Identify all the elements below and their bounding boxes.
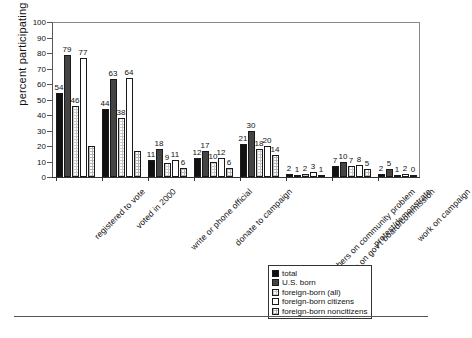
- bar: 54: [56, 93, 63, 177]
- bar: 38: [118, 118, 125, 177]
- bar: 11: [148, 160, 155, 177]
- bar-value-label: 0: [411, 165, 415, 175]
- y-tick-label: 90: [0, 33, 52, 42]
- bar: 0: [410, 175, 417, 177]
- bar: 11: [172, 160, 179, 177]
- x-tick-mark: [148, 177, 149, 181]
- bar-group: 54794677: [52, 22, 98, 177]
- y-tick-label: 50: [0, 95, 52, 104]
- legend-label: U.S. born: [282, 278, 316, 287]
- legend-item: foreign-born noncitizens: [272, 307, 367, 316]
- legend-label: foreign-born (all): [282, 288, 341, 297]
- x-tick-mark: [102, 177, 103, 181]
- bar-value-label: 2: [303, 164, 307, 174]
- bar-groups: 5479467744633864111891161217101262130182…: [52, 22, 420, 177]
- bar-value-label: 2: [403, 164, 407, 174]
- bar: 44: [102, 109, 109, 177]
- legend-item: foreign-born (all): [272, 288, 367, 297]
- y-tick-label: 10: [0, 157, 52, 166]
- bar: 18: [156, 149, 163, 177]
- bar: 64: [126, 78, 133, 177]
- y-tick-label: 100: [0, 18, 52, 27]
- x-tick-mark: [194, 177, 195, 181]
- bar: 12: [194, 158, 201, 177]
- legend-item: foreign-born citizens: [272, 297, 367, 306]
- x-category-label: registered to vote: [92, 186, 147, 241]
- bar: 79: [64, 55, 71, 177]
- bar: 7: [348, 166, 355, 177]
- bar-value-label: 3: [311, 162, 315, 172]
- bar: 6: [180, 168, 187, 177]
- bar: 1: [294, 175, 301, 177]
- bar-value-label: 11: [171, 150, 179, 160]
- legend-swatch-foreign-born-noncitizens: [272, 308, 279, 315]
- legend-swatch-total: [272, 270, 279, 277]
- legend-label: foreign-born noncitizens: [282, 307, 367, 316]
- bar: 5: [386, 169, 393, 177]
- footer-divider: [14, 316, 428, 317]
- bar-value-label: 6: [227, 158, 231, 168]
- bar-group: 25120: [374, 22, 420, 177]
- bar: 46: [72, 106, 79, 177]
- bar: 18: [256, 149, 263, 177]
- bar-value-label: 1: [319, 165, 323, 175]
- bar: 1: [394, 175, 401, 177]
- bar: 1: [318, 175, 325, 177]
- bar-value-label: 54: [55, 83, 64, 93]
- bar-value-label: 2: [379, 164, 383, 174]
- bar: 12: [218, 158, 225, 177]
- bar: 6: [226, 168, 233, 177]
- bar: 3: [310, 172, 317, 177]
- bar-value-label: 5: [365, 159, 369, 169]
- bar-value-label: 7: [333, 156, 337, 166]
- bar: 2: [402, 174, 409, 177]
- legend-swatch-foreign-born-citizens: [272, 298, 279, 305]
- bar-value-label: 7: [349, 156, 353, 166]
- bar: 77: [80, 58, 87, 177]
- bar: [134, 151, 141, 177]
- bar: 21: [240, 144, 247, 177]
- bar-value-label: 77: [79, 48, 88, 58]
- x-tick-mark: [56, 177, 57, 181]
- bar: 9: [164, 163, 171, 177]
- bar-value-label: 11: [147, 150, 155, 160]
- bar: 63: [110, 79, 117, 177]
- bar-group: 2130182014: [236, 22, 282, 177]
- legend-swatch-foreign-born-all: [272, 289, 279, 296]
- bar-value-label: 17: [201, 141, 210, 151]
- bar-value-label: 6: [181, 158, 185, 168]
- y-tick-label: 30: [0, 126, 52, 135]
- bar-group: 710785: [328, 22, 374, 177]
- bar-value-label: 8: [357, 155, 361, 165]
- bar: 30: [248, 131, 255, 178]
- y-tick-label: 80: [0, 49, 52, 58]
- bar-value-label: 44: [101, 99, 110, 109]
- bar: 20: [264, 146, 271, 177]
- bar-value-label: 79: [63, 45, 72, 55]
- bar: [88, 146, 95, 177]
- bar-value-label: 1: [395, 165, 399, 175]
- bar: 8: [356, 165, 363, 177]
- chart-legend: total U.S. born foreign-born (all) forei…: [268, 265, 372, 319]
- x-tick-mark: [240, 177, 241, 181]
- x-tick-mark: [286, 177, 287, 181]
- bar-value-label: 18: [155, 139, 164, 149]
- bar-value-label: 64: [125, 68, 134, 78]
- legend-label: foreign-born citizens: [282, 297, 354, 306]
- bar: 10: [210, 162, 217, 178]
- bar-value-label: 14: [271, 145, 280, 155]
- bar-value-label: 2: [287, 164, 291, 174]
- bar-value-label: 12: [217, 148, 226, 158]
- bar: 10: [340, 162, 347, 178]
- bar-group: 44633864: [98, 22, 144, 177]
- legend-swatch-us-born: [272, 279, 279, 286]
- bar-value-label: 5: [387, 159, 391, 169]
- bar-value-label: 21: [239, 134, 248, 144]
- bar-group: 11189116: [144, 22, 190, 177]
- bar-value-label: 9: [165, 153, 169, 163]
- x-axis-line: [52, 177, 420, 178]
- bar: 14: [272, 155, 279, 177]
- bar-value-label: 1: [295, 165, 299, 175]
- y-tick-label: 0: [0, 173, 52, 182]
